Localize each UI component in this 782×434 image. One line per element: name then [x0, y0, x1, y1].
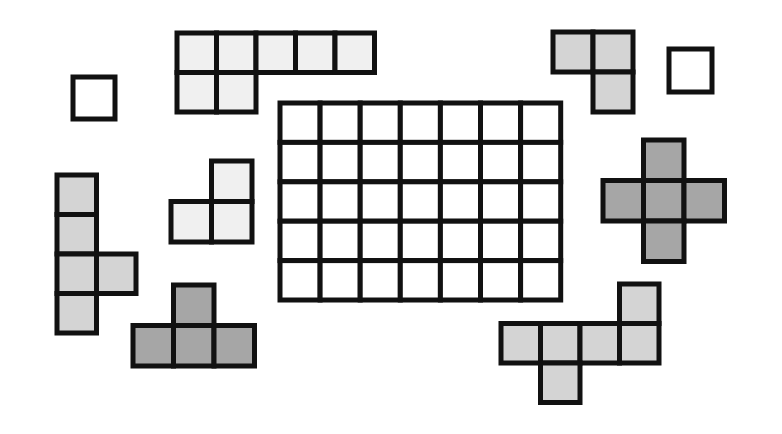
piece-cell	[256, 33, 296, 73]
piece-cell	[620, 324, 660, 364]
piece-cell	[296, 33, 336, 73]
polyomino-diagram	[0, 0, 782, 434]
grid-cell	[521, 182, 561, 221]
piece-cell	[174, 326, 215, 367]
grid-cell	[400, 221, 440, 260]
grid-cell	[521, 261, 561, 300]
grid-cell	[320, 103, 360, 142]
grid-cell	[320, 142, 360, 181]
piece-cell	[57, 215, 97, 255]
piece-cell	[133, 326, 174, 367]
grid-cell	[440, 182, 480, 221]
grid-cell	[521, 103, 561, 142]
piece-cell	[603, 181, 644, 222]
piece-cell	[73, 77, 115, 119]
grid-cell	[440, 142, 480, 181]
grid-cell	[440, 261, 480, 300]
piece-cell	[553, 32, 593, 72]
piece-cell	[174, 285, 215, 326]
grid-cell	[400, 103, 440, 142]
main-grid	[280, 103, 561, 300]
piece-cell	[593, 32, 633, 72]
piece-cell	[644, 140, 685, 181]
piece-cell	[541, 324, 581, 364]
piece-cell	[212, 202, 253, 243]
piece-single-right	[669, 49, 712, 92]
piece-cell	[177, 33, 217, 73]
piece-cell	[501, 324, 541, 364]
grid-cell	[481, 182, 521, 221]
piece-cell	[217, 73, 257, 113]
grid-cell	[481, 221, 521, 260]
grid-cell	[280, 142, 320, 181]
grid-cell	[400, 142, 440, 181]
grid-cell	[521, 221, 561, 260]
piece-cell	[57, 175, 97, 215]
grid-cell	[481, 142, 521, 181]
grid-cell	[320, 221, 360, 260]
piece-cell	[212, 161, 253, 202]
piece-cell	[57, 294, 97, 334]
grid-cell	[280, 261, 320, 300]
grid-cell	[280, 182, 320, 221]
grid-cell	[320, 182, 360, 221]
piece-cell	[171, 202, 212, 243]
piece-cell	[669, 49, 712, 92]
piece-cell	[644, 181, 685, 222]
piece-cell	[214, 326, 255, 367]
grid-cell	[481, 261, 521, 300]
grid-cell	[521, 142, 561, 181]
piece-cell	[217, 33, 257, 73]
grid-cell	[400, 261, 440, 300]
grid-cell	[440, 221, 480, 260]
grid-cell	[280, 221, 320, 260]
grid-cell	[360, 261, 400, 300]
piece-cell	[97, 254, 137, 294]
grid-cell	[481, 103, 521, 142]
grid-cell	[400, 182, 440, 221]
grid-cell	[320, 261, 360, 300]
piece-cell	[593, 72, 633, 112]
piece-cell	[644, 221, 685, 262]
piece-cell	[620, 284, 660, 324]
grid-cell	[360, 182, 400, 221]
grid-cell	[280, 103, 320, 142]
grid-cell	[360, 103, 400, 142]
piece-single-left	[73, 77, 115, 119]
piece-cell	[541, 363, 581, 403]
piece-cell	[684, 181, 725, 222]
piece-cell	[57, 254, 97, 294]
piece-cell	[177, 73, 217, 113]
piece-cell	[335, 33, 375, 73]
grid-cell	[360, 142, 400, 181]
grid-cell	[360, 221, 400, 260]
piece-cell	[580, 324, 620, 364]
grid-cell	[440, 103, 480, 142]
